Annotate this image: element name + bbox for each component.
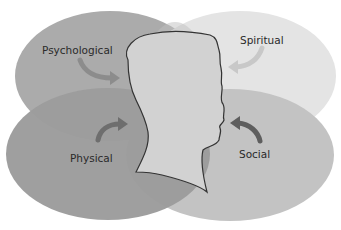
wellness-diagram: Psychological Spiritual Physical Social [0, 0, 341, 230]
label-spiritual: Spiritual [240, 34, 284, 46]
label-psychological: Psychological [42, 44, 113, 56]
label-social: Social [239, 148, 270, 160]
label-physical: Physical [70, 152, 113, 164]
